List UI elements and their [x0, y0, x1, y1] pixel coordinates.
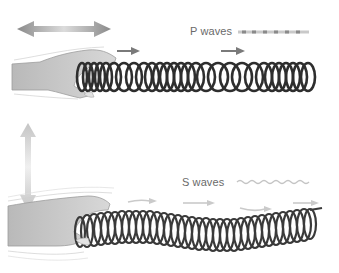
p-waves-label: P waves	[190, 25, 232, 37]
s-waves-legend-icon	[237, 181, 309, 184]
slinky-spring-s	[75, 209, 316, 251]
s-waves-label: S waves	[182, 176, 224, 188]
p-waves-panel	[12, 21, 315, 99]
p-direction-arrow-icon	[221, 47, 245, 55]
s-waves-panel	[8, 123, 322, 260]
wave-diagram: P waves S waves	[0, 0, 339, 273]
s-direction-arrow-icon	[183, 200, 215, 206]
s-direction-arrow-icon	[240, 206, 272, 212]
diagram-canvas	[0, 0, 339, 273]
p-direction-arrow-icon	[117, 47, 140, 55]
s-direction-arrow-icon	[128, 198, 157, 204]
spring-end-wire	[310, 208, 322, 210]
slinky-spring-p	[77, 63, 315, 91]
hand-fingers	[76, 238, 90, 245]
p-waves-legend-icon	[238, 31, 309, 34]
s-direction-arrow-icon	[293, 200, 319, 206]
horizontal-double-arrow-icon	[17, 21, 111, 37]
